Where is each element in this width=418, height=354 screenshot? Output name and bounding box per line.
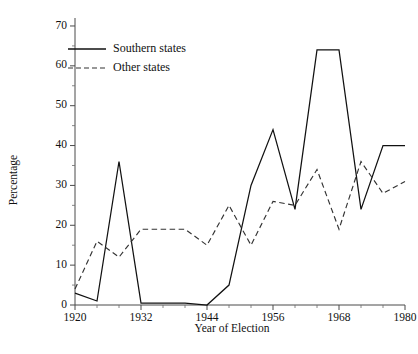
series-lines (75, 50, 405, 305)
x-axis: 192019321944195619681980 (64, 305, 417, 323)
y-tick-label: 10 (56, 258, 68, 270)
x-axis-title: Year of Election (195, 322, 270, 334)
legend-label: Southern states (113, 41, 186, 55)
y-axis: 010203040506070 (56, 18, 76, 310)
y-tick-label: 50 (56, 98, 68, 110)
x-tick-label: 1980 (394, 311, 417, 323)
x-tick-label: 1968 (328, 311, 351, 323)
x-tick-label: 1920 (64, 311, 87, 323)
y-tick-label: 70 (56, 19, 68, 31)
y-axis-title: Percentage (7, 155, 20, 205)
chart-legend: Southern statesOther states (68, 41, 186, 74)
y-tick-label: 40 (56, 138, 68, 150)
y-tick-label: 30 (56, 178, 68, 190)
legend-label: Other states (113, 60, 170, 74)
chart-figure: 010203040506070 192019321944195619681980… (0, 0, 418, 354)
percentage-by-year-line-chart: 010203040506070 192019321944195619681980… (0, 0, 418, 354)
series-line-2 (75, 162, 405, 290)
y-tick-label: 60 (56, 58, 68, 70)
y-tick-label: 20 (56, 218, 68, 230)
x-tick-label: 1932 (130, 311, 153, 323)
y-tick-label: 0 (61, 298, 67, 310)
